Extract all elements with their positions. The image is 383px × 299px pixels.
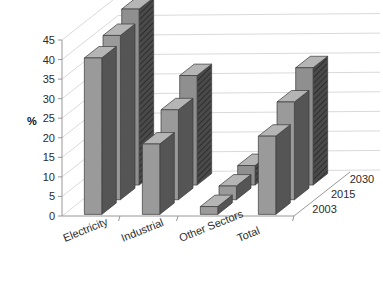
y-tick-label-45: 45: [43, 34, 55, 46]
y-tick-label-0: 0: [49, 210, 55, 222]
bar-side-electricity-2003: [102, 47, 117, 215]
y-tick-label-30: 30: [43, 93, 55, 105]
bar-side-electricity-2015: [120, 24, 135, 200]
y-tick-label-35: 35: [43, 73, 55, 85]
bar-face-other-sectors-2003: [200, 207, 217, 215]
bar-side-industrial-2003: [160, 133, 175, 215]
y-tick-label-25: 25: [43, 112, 55, 124]
y-tick-label-5: 5: [49, 190, 55, 202]
chart-container: 051015202530354045 ElectricityIndustrial…: [0, 0, 383, 299]
y-tick-label-15: 15: [43, 151, 55, 163]
y-axis-title: %: [27, 115, 37, 127]
bar-side-industrial-2030: [197, 64, 212, 185]
bar-side-total-2003: [276, 125, 291, 215]
bar-side-total-2015: [294, 91, 309, 200]
depth-axis-label-2003: 2003: [312, 203, 336, 215]
bar-side-total-2030: [313, 56, 328, 185]
bar-chart-3d: 051015202530354045 ElectricityIndustrial…: [0, 0, 383, 299]
y-tick-label-20: 20: [43, 132, 55, 144]
bar-side-industrial-2015: [178, 98, 193, 199]
y-tick-label-40: 40: [43, 54, 55, 66]
bar-face-industrial-2003: [142, 144, 159, 214]
bar-face-electricity-2003: [84, 58, 101, 214]
depth-axis-label-2015: 2015: [331, 188, 355, 200]
depth-axis-label-2030: 2030: [350, 173, 374, 185]
y-tick-label-10: 10: [43, 171, 55, 183]
bar-face-total-2003: [258, 136, 275, 214]
